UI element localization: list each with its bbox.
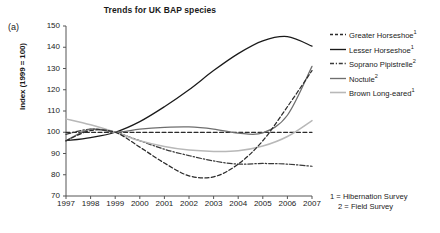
legend-superscript-noctule: 2 xyxy=(375,73,378,79)
legend-label-brown-long-eared: Brown Long-eared1 xyxy=(349,86,415,98)
footnotes: 1 = Hibernation Survey 2 = Field Survey xyxy=(330,192,407,212)
axes-lines xyxy=(63,26,312,199)
legend-superscript-brown-long-eared: 1 xyxy=(411,87,414,93)
legend-item-noctule[interactable]: Noctule2 xyxy=(330,72,438,84)
legend-superscript-soprano-pipistrelle: 2 xyxy=(413,58,416,64)
legend-swatch-lesser-horseshoe-icon xyxy=(330,45,346,54)
legend-swatch-soprano-pipistrelle-icon xyxy=(330,59,346,68)
series-line-soprano-pipistrelle xyxy=(66,129,312,166)
legend-item-lesser-horseshoe[interactable]: Lesser Horseshoe1 xyxy=(330,43,438,55)
legend-swatch-brown-long-eared-icon xyxy=(330,88,346,97)
figure-panel: (a) Trends for UK BAP species Index (199… xyxy=(0,0,440,233)
legend-item-brown-long-eared[interactable]: Brown Long-eared1 xyxy=(330,86,438,98)
legend-item-greater-horseshoe[interactable]: Greater Horseshoe1 xyxy=(330,28,438,40)
series-line-greater-horseshoe-hibernation-dashed-dip xyxy=(66,71,312,178)
legend-swatch-noctule-icon xyxy=(330,74,346,83)
data-series-lines xyxy=(66,36,312,178)
legend-swatch-greater-horseshoe-icon xyxy=(330,30,346,39)
legend-label-lesser-horseshoe: Lesser Horseshoe1 xyxy=(349,43,414,55)
legend-label-noctule: Noctule2 xyxy=(349,72,378,84)
footnote-hibernation: 1 = Hibernation Survey xyxy=(330,192,407,202)
legend-label-soprano-pipistrelle: Soprano Pipistrelle2 xyxy=(349,57,416,69)
legend-superscript-lesser-horseshoe: 1 xyxy=(411,44,414,50)
legend-superscript-greater-horseshoe: 1 xyxy=(414,29,417,35)
footnote-field: 2 = Field Survey xyxy=(338,202,407,212)
legend: Greater Horseshoe1Lesser Horseshoe1Sopra… xyxy=(330,28,438,101)
legend-label-greater-horseshoe: Greater Horseshoe1 xyxy=(349,28,417,40)
legend-item-soprano-pipistrelle[interactable]: Soprano Pipistrelle2 xyxy=(330,57,438,69)
